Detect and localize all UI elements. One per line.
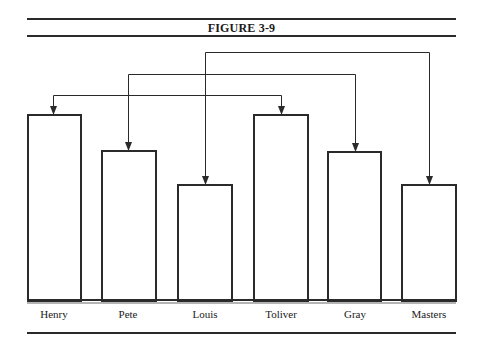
arrow-head-icon: [125, 142, 132, 151]
arrow-head-icon: [202, 176, 209, 185]
bar-diagram: [0, 0, 481, 351]
bar-pete: [102, 151, 156, 301]
bar-label-masters: Masters: [394, 307, 464, 321]
bar-masters: [402, 185, 456, 301]
arrow-head-icon: [426, 176, 433, 185]
bar-label-louis: Louis: [170, 307, 240, 321]
bar-label-toliver: Toliver: [246, 307, 316, 321]
connector-henry-toliver: [50, 96, 285, 116]
bar-gray: [328, 152, 381, 301]
bar-toliver: [254, 115, 308, 301]
connector-louis-masters: [202, 53, 433, 186]
bar-label-pete: Pete: [93, 307, 163, 321]
bar-label-henry: Henry: [19, 307, 89, 321]
arrow-head-icon: [352, 143, 359, 152]
bar-henry: [28, 115, 81, 301]
arrow-head-icon: [50, 106, 57, 115]
arrow-head-icon: [278, 106, 285, 115]
bar-label-gray: Gray: [320, 307, 390, 321]
bottom-rule: [27, 332, 456, 334]
bar-louis: [178, 185, 232, 301]
connector-pete-gray: [125, 75, 359, 153]
